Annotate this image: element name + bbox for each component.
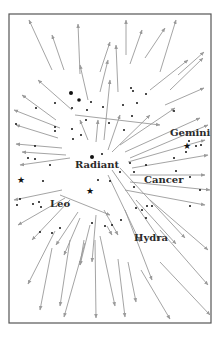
star-dot [189,176,191,178]
star-dot [111,224,113,226]
star-dot [101,153,103,155]
star-dot [54,126,56,128]
star-dot [40,206,42,208]
star-dot [122,104,124,106]
star-dot [119,171,121,173]
star-dot [175,170,177,172]
star-dot [90,101,92,103]
star-dot [102,106,104,108]
star-dot [27,157,29,159]
label-leo: Leo [50,198,70,209]
star-dot [97,179,99,181]
star-dot [77,98,81,102]
star-dot [173,110,175,112]
star-dot [54,130,56,132]
star-dot [120,219,122,221]
star-dot [145,164,147,166]
star-dot [51,232,53,234]
star-dot [133,186,135,188]
star-dot [38,201,40,203]
star-dot [200,144,202,146]
label-radiant: Radiant [75,159,120,170]
star-dot [199,189,201,191]
star-dot [173,157,175,159]
star-dot [129,162,131,164]
label-hydra: Hydra [134,232,169,243]
label-cancer: Cancer [144,174,184,185]
star-dot [189,205,191,207]
star-dot [59,227,61,229]
star-dot [123,129,125,131]
star-dot [108,122,110,124]
star-dot [141,209,143,211]
star-dot [34,158,36,160]
star-dot [132,90,134,92]
star-dot [145,217,147,219]
star-dot [85,119,87,121]
star-dot [195,145,197,147]
star-dot [131,115,133,117]
leo-star-icon: ★ [17,175,25,185]
star-dot [146,205,148,207]
star-dot [91,222,93,224]
star-dot [151,205,153,207]
star-dot [34,145,36,147]
star-dot [109,180,111,182]
cancer-star-icon: ★ [86,186,94,196]
star-dot [104,225,106,227]
star-dot [54,102,56,104]
star-dot [15,123,17,125]
star-dot [16,204,18,206]
star-dot [39,231,41,233]
star-dot [133,171,135,173]
star-dot [130,87,132,89]
star-dot [185,151,187,153]
star-dot [42,180,44,182]
gemini-star-icon: ★ [183,141,191,151]
star-dot [86,109,88,111]
star-dot [135,207,137,209]
star-dot [35,107,37,109]
star-dot [72,138,74,140]
meteor-radiant-diagram: ★★★ Gemini Radiant Cancer Leo Hydra [0,0,221,342]
star-dot [49,164,51,166]
star-dot [69,91,73,95]
label-gemini: Gemini [170,127,211,138]
star-dot [71,128,73,130]
star-dot [32,203,34,205]
star-dot [19,198,21,200]
star-dot [80,134,82,136]
star-dot [136,102,138,104]
star-dot [145,93,147,95]
star-dot [71,107,73,109]
